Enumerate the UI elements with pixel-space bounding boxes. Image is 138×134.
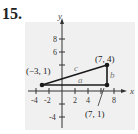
x-axis-arrow-icon — [121, 89, 127, 93]
y-tick-label: -4 — [49, 113, 56, 122]
side-label-a: a — [78, 75, 83, 85]
side-label-b: b — [110, 70, 115, 80]
point-marker — [40, 83, 45, 88]
point-label: (7, 4) — [95, 54, 115, 64]
x-axis — [28, 88, 127, 94]
side-label-c: c — [74, 63, 78, 73]
y-axis-label: y — [57, 11, 62, 21]
y-axis — [59, 18, 65, 128]
x-tick-label: 2 — [73, 96, 77, 105]
point-label: (7, 1) — [85, 109, 105, 119]
x-axis-label: x — [129, 86, 134, 96]
x-tick-label: 4 — [86, 96, 90, 105]
x-tick-label: 8 — [112, 96, 116, 105]
x-tick-label: -2 — [44, 96, 51, 105]
x-tick-label: -4 — [31, 96, 38, 105]
point-label: (−3, 1) — [26, 66, 51, 76]
point-marker — [105, 83, 110, 88]
y-tick-label: 6 — [53, 48, 57, 57]
coordinate-plane: x y -4 -2 2 4 8 8 6 -4 c a b (−3, 1) (7,… — [0, 0, 138, 134]
y-tick-label: 8 — [53, 35, 57, 44]
